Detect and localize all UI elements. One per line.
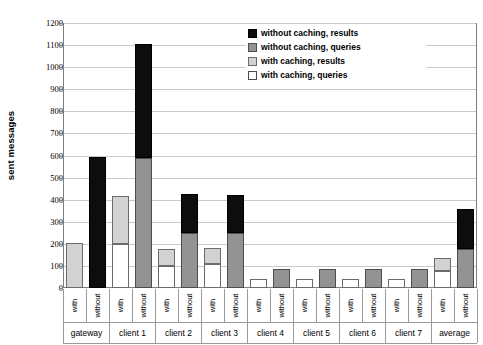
bar-segment-results [227,195,244,233]
bar-segment-queries [158,266,175,288]
bar-client-7-without [411,269,428,288]
legend-label: without caching, queries [261,42,361,52]
bar-segment-results [181,194,198,233]
x-axis-sub-label-without: without [179,289,202,322]
bar-segment-queries [204,264,221,288]
x-axis-sub-label-text: with [439,299,448,312]
x-axis-sub-label-text: with [163,299,172,312]
bar-client-6-with [342,279,359,288]
bar-segment-results [66,243,83,288]
x-axis-sub-label-text: with [301,299,310,312]
x-axis-sub-label-text: with [209,299,218,312]
x-axis-sub-label-without: without [87,289,110,322]
x-axis-sub-label-text: without [186,294,195,318]
bar-segment-queries [181,233,198,288]
bar-client-5-with [296,279,313,288]
legend-swatch-icon [248,71,257,80]
x-axis-group-label-text: client 7 [395,328,422,338]
x-axis-sub-label-with: with [432,289,455,322]
bar-client-4-with [250,279,267,288]
x-axis-group-label-client-3: client 3 [202,322,248,343]
bar-client-3-without [227,195,244,288]
x-axis-sub-label-text: without [370,294,379,318]
x-axis-sub-label-text: without [462,294,471,318]
bar-segment-queries [250,279,267,288]
legend-item-results-without: without caching, results [246,26,426,40]
x-axis-group-label-client-5: client 5 [294,322,340,343]
x-axis-sub-label-text: with [255,299,264,312]
y-axis-title: sent messages [2,0,20,290]
x-axis-group-label-text: client 6 [349,328,376,338]
x-axis-sub-label-text: with [393,299,402,312]
y-axis-ticks: 0100200300400500600700800900100011001200 [26,23,63,289]
legend: without caching, resultswithout caching,… [246,24,426,84]
x-axis-sub-label-text: without [94,294,103,318]
bar-gateway-with [66,243,83,288]
legend-swatch-icon [248,43,257,52]
x-axis-sub-label-with: with [156,289,179,322]
bar-segment-results [112,196,129,243]
bar-client-2-with [158,249,175,288]
bar-client-5-without [319,269,336,288]
x-axis-sub-label-with: with [248,289,271,322]
bar-segment-queries [135,158,152,288]
bar-segment-results [135,44,152,158]
x-axis-sub-label-without: without [225,289,248,322]
bar-client-6-without [365,269,382,288]
bar-segment-queries [319,269,336,288]
x-axis-group-label-text: client 2 [165,328,192,338]
x-axis-sub-label-without: without [363,289,386,322]
bar-segment-results [457,209,474,250]
bar-segment-queries [365,269,382,288]
x-axis-group-label-client-2: client 2 [156,322,202,343]
bar-segment-results [158,249,175,266]
x-axis-sub-label-text: without [324,294,333,318]
x-axis-sub-label-text: without [416,294,425,318]
legend-label: with caching, results [261,56,345,66]
x-axis-sub-label-text: with [71,299,80,312]
bar-client-1-without [135,44,152,288]
x-axis-sub-label-with: with [294,289,317,322]
x-axis-sub-label-without: without [455,289,478,322]
x-axis-group-label-client-1: client 1 [110,322,156,343]
x-axis-group-label-text: client 1 [119,328,146,338]
x-axis-sub-label-text: without [140,294,149,318]
x-axis-sub-label-text: without [232,294,241,318]
bar-client-3-with [204,248,221,288]
x-axis-sub-label-with: with [340,289,363,322]
bar-client-7-with [388,279,405,288]
legend-item-queries-with: with caching, queries [246,68,426,82]
x-axis-sub-label-with: with [64,289,87,322]
x-axis-sub-label-text: with [347,299,356,312]
x-axis-sub-label-text: with [117,299,126,312]
x-axis-sub-label-with: with [110,289,133,322]
x-axis-sub-label-text: without [278,294,287,318]
bar-segment-results [89,157,106,288]
x-axis-sub-label-without: without [317,289,340,322]
bar-segment-queries [388,279,405,288]
x-axis-group-label-text: client 5 [303,328,330,338]
bar-gateway-without [89,157,106,288]
x-axis-group-label-text: client 3 [211,328,238,338]
x-axis-sub-label-with: with [202,289,225,322]
bar-segment-queries [227,233,244,288]
legend-swatch-icon [248,29,257,38]
bar-segment-queries [457,249,474,288]
bar-client-1-with [112,196,129,288]
bar-segment-queries [434,271,451,288]
bar-segment-results [204,248,221,263]
bar-segment-queries [273,269,290,288]
x-axis-sub-label-without: without [271,289,294,322]
bar-client-4-without [273,269,290,288]
bar-segment-queries [112,244,129,288]
y-axis-title-label: sent messages [6,110,17,179]
bar-average-with [434,258,451,288]
x-axis-group-label-average: average [432,322,478,343]
x-axis-sub-label-without: without [133,289,156,322]
x-axis-group-label-gateway: gateway [64,322,110,343]
bar-segment-queries [296,279,313,288]
bar-segment-queries [342,279,359,288]
legend-label: with caching, queries [261,70,347,80]
x-axis-sub-label-with: with [386,289,409,322]
x-axis-group-label-text: gateway [71,328,103,338]
